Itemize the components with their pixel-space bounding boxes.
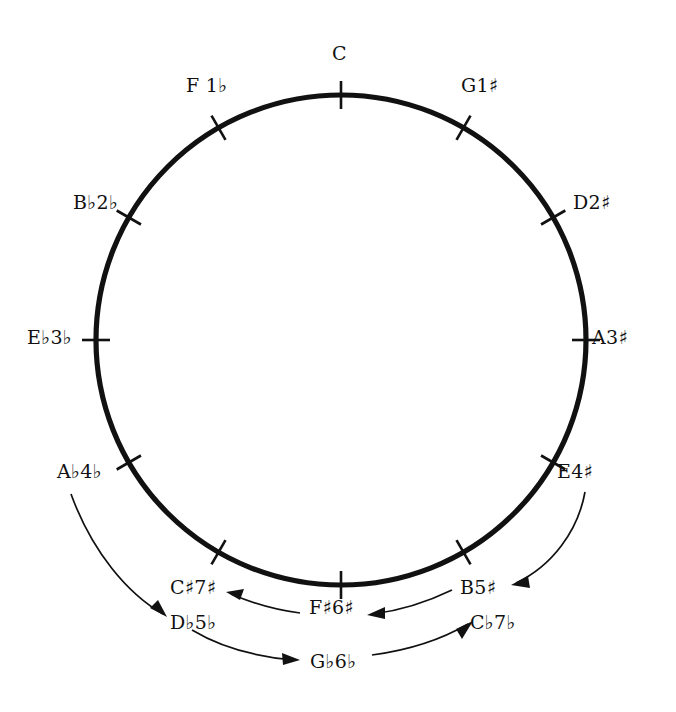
arrow-gb-to-cb (372, 621, 473, 655)
key-label-g-flat[interactable]: G♭6♭ (310, 652, 356, 671)
arrow-db-to-gb (192, 630, 300, 665)
key-label-d[interactable]: D2♯ (573, 193, 610, 212)
key-label-f-sharp[interactable]: F♯6♯ (309, 598, 354, 617)
key-label-f[interactable]: F 1♭ (186, 76, 227, 95)
key-label-b-flat[interactable]: B♭2♭ (73, 193, 118, 212)
arrow-head-icon (150, 600, 167, 617)
arrow-fs-to-cs (226, 589, 300, 613)
tick-mark-group (82, 81, 600, 599)
arrow-head-icon (367, 607, 385, 619)
key-label-a[interactable]: A3♯ (592, 328, 628, 347)
circle-of-fifths-figure: C G1♯ D2♯ A3♯ E4♯ B5♯ F♯6♯ C♯7♯ A♭4♭ E♭3… (0, 0, 676, 712)
circle-of-fifths-ring (96, 95, 586, 585)
arrow-head-icon (282, 653, 300, 665)
arrow-ab-to-db (71, 494, 167, 617)
arrow-b-to-fs (367, 590, 452, 619)
key-label-c-flat[interactable]: C♭7♭ (470, 613, 516, 632)
key-label-g[interactable]: G1♯ (461, 76, 498, 95)
key-label-a-flat[interactable]: A♭4♭ (57, 462, 102, 481)
key-label-e[interactable]: E4♯ (557, 462, 593, 481)
key-label-d-flat[interactable]: D♭5♭ (170, 613, 216, 632)
key-label-c[interactable]: C (332, 44, 347, 63)
arrow-head-icon (511, 576, 530, 588)
key-label-c-sharp[interactable]: C♯7♯ (170, 578, 216, 597)
key-label-e-flat[interactable]: E♭3♭ (27, 328, 72, 347)
key-label-b[interactable]: B5♯ (460, 578, 496, 597)
